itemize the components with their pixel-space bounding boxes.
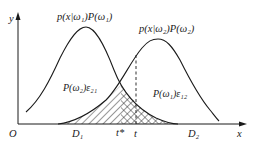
x-axis-arrow-icon [239,122,247,127]
curve-class2-label: p(x|ω₂)P(ω₂) [139,24,194,35]
origin-label: O [9,129,17,140]
threshold-t-star-label: t* [116,128,124,139]
y-axis-label: y [9,14,14,25]
x-axis-label: x [237,129,242,140]
threshold-t-label: t [134,129,137,140]
error-e21-label: P(ω₂)ε₂₁ [63,83,97,93]
region-d2-label: D₂ [188,129,199,140]
y-axis-arrow-icon [16,12,21,20]
error-e12-label: P(ω₁)ε₁₂ [153,89,187,99]
region-d1-label: D₁ [72,129,83,140]
decision-diagram [0,0,255,146]
curve-class1-label: p(x|ω₁)P(ω₁) [57,12,112,23]
